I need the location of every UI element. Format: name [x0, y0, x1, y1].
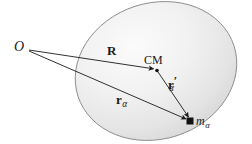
label-mass-base: m: [196, 114, 205, 128]
label-cm: CM: [144, 54, 163, 66]
cm-vector-diagram: O R CM r′α rα mα: [0, 0, 252, 144]
label-mass-alpha: mα: [196, 115, 210, 129]
mass-point-marker: [187, 118, 194, 125]
label-origin: O: [14, 40, 24, 54]
label-vector-r-prime-alpha: r′α: [168, 78, 174, 91]
label-r-alpha-subscript: α: [122, 99, 127, 109]
label-r-alpha-base: r: [116, 92, 122, 107]
rigid-body-shape: [57, 0, 252, 144]
label-vector-r-alpha: rα: [116, 93, 127, 109]
cm-point: [155, 69, 159, 73]
label-vector-R: R: [107, 44, 116, 57]
label-mass-subscript: α: [205, 120, 210, 130]
label-r-prime-mark: ′: [174, 75, 177, 87]
diagram-canvas: [0, 0, 252, 144]
label-r-prime-subscript: α: [169, 84, 174, 93]
